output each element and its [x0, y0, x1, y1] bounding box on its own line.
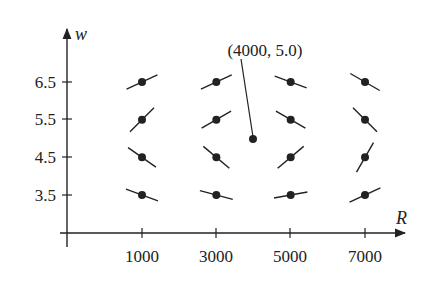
x-axis-label: R — [395, 208, 407, 228]
slope-point — [361, 116, 369, 124]
x-tick-label: 5000 — [273, 247, 307, 266]
y-tick-label: 6.5 — [35, 73, 56, 92]
slope-point — [212, 191, 220, 199]
slope-point — [212, 116, 220, 124]
x-tick-label: 1000 — [125, 247, 159, 266]
slope-field-figure: w R 1000 3000 5000 7000 6.5 5.5 4.5 3.5 — [0, 0, 434, 282]
x-tick-label: 7000 — [348, 247, 382, 266]
slope-point — [138, 153, 146, 161]
slope-point — [287, 116, 295, 124]
y-axis-label: w — [75, 24, 87, 44]
slope-point — [212, 78, 220, 86]
slope-point — [287, 78, 295, 86]
y-tick-label: 4.5 — [35, 148, 56, 167]
slope-point — [361, 78, 369, 86]
y-tick-label: 5.5 — [35, 110, 56, 129]
slope-point — [138, 78, 146, 86]
equilibrium-label: (4000, 5.0) — [227, 41, 302, 60]
slope-point — [361, 191, 369, 199]
equilibrium-point — [249, 135, 257, 143]
equilibrium-leader-line — [241, 59, 253, 137]
x-tick-label: 3000 — [199, 247, 233, 266]
slope-point — [138, 191, 146, 199]
y-tick-label: 3.5 — [35, 186, 56, 205]
slope-point — [212, 153, 220, 161]
slope-point — [287, 191, 295, 199]
slope-point — [361, 153, 369, 161]
slope-point — [138, 116, 146, 124]
slope-point — [287, 153, 295, 161]
slope-field-plot: w R 1000 3000 5000 7000 6.5 5.5 4.5 3.5 — [0, 0, 434, 282]
